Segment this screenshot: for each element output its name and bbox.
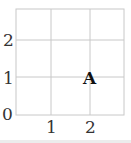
bottom-divider [0, 140, 131, 143]
x-tick-1: 1 [46, 119, 57, 136]
y-tick-1: 1 [3, 70, 14, 87]
y-tick-2: 2 [3, 32, 14, 49]
x-tick-2: 2 [85, 119, 96, 136]
coordinate-grid [0, 0, 131, 143]
y-tick-0: 0 [2, 106, 13, 123]
point-a-label: A [83, 70, 96, 87]
